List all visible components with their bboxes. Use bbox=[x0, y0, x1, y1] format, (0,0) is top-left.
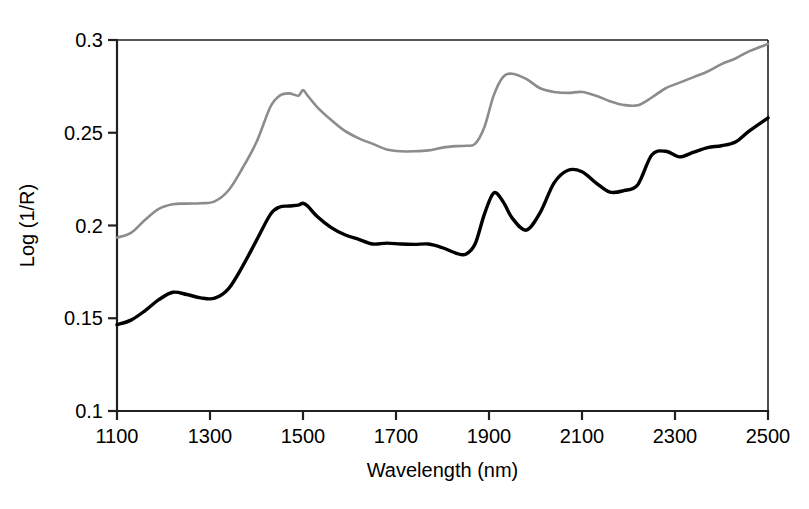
series-lower-curve bbox=[117, 118, 768, 325]
y-axis-title: Log (1/R) bbox=[16, 184, 38, 267]
series-upper-curve bbox=[117, 44, 768, 237]
x-tick-label: 2100 bbox=[560, 425, 605, 447]
y-tick-label: 0.25 bbox=[64, 122, 103, 144]
chart-figure: 0.10.150.20.250.311001300150017001900210… bbox=[0, 0, 809, 509]
x-tick-label: 1900 bbox=[467, 425, 512, 447]
spectral-line-chart: 0.10.150.20.250.311001300150017001900210… bbox=[0, 0, 809, 509]
x-tick-label: 1500 bbox=[281, 425, 326, 447]
x-tick-label: 1100 bbox=[95, 425, 138, 447]
axes bbox=[108, 40, 768, 420]
x-tick-label: 2300 bbox=[653, 425, 698, 447]
y-tick-label: 0.2 bbox=[75, 215, 103, 237]
y-tick-label: 0.15 bbox=[64, 307, 103, 329]
x-tick-label: 1300 bbox=[188, 425, 233, 447]
y-tick-label: 0.3 bbox=[75, 29, 103, 51]
series-layer bbox=[117, 44, 768, 325]
x-tick-label: 2500 bbox=[746, 425, 791, 447]
x-axis-title: Wavelength (nm) bbox=[367, 459, 519, 481]
x-tick-label: 1700 bbox=[374, 425, 419, 447]
y-tick-label: 0.1 bbox=[75, 400, 103, 422]
